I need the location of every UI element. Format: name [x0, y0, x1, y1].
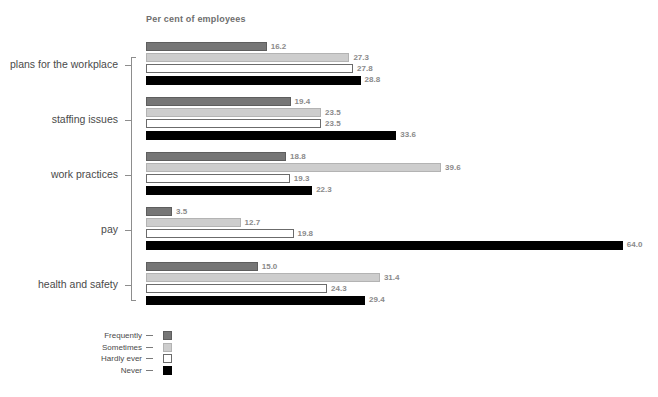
bar-row: 39.6	[146, 163, 658, 172]
bar-frequently[interactable]	[146, 262, 258, 271]
bar-group: work practices18.839.619.322.3	[0, 152, 658, 200]
bar-value-label: 15.0	[262, 262, 278, 272]
legend-item[interactable]: Frequently	[62, 330, 172, 341]
bar-never[interactable]	[146, 241, 623, 250]
bar-row: 16.2	[146, 42, 658, 51]
bar-value-label: 3.5	[176, 207, 187, 217]
bar-sometimes[interactable]	[146, 108, 321, 117]
bar-row: 22.3	[146, 186, 658, 195]
bar-sometimes[interactable]	[146, 53, 349, 62]
legend-swatch-frequently	[163, 331, 172, 340]
legend-swatch-hardly	[163, 354, 172, 363]
bar-value-label: 19.8	[298, 229, 314, 239]
legend-item-label: Sometimes	[102, 342, 142, 353]
bar-value-label: 23.5	[325, 119, 341, 129]
bar-row: 19.4	[146, 97, 658, 106]
bar-frequently[interactable]	[146, 97, 291, 106]
bar-value-label: 24.3	[331, 284, 347, 294]
bar-never[interactable]	[146, 131, 396, 140]
category-axis-tick	[125, 230, 131, 231]
bar-hardly[interactable]	[146, 284, 327, 293]
legend-item-label: Frequently	[104, 330, 142, 341]
bar-row: 27.3	[146, 53, 658, 62]
bar-row: 19.8	[146, 229, 658, 238]
bar-value-label: 12.7	[245, 218, 261, 228]
bar-hardly[interactable]	[146, 64, 353, 73]
legend-leader-line	[146, 347, 153, 348]
category-label: work practices	[0, 168, 118, 180]
legend-item-label: Never	[121, 365, 142, 376]
plot-area: plans for the workplace16.227.327.828.8s…	[0, 38, 658, 320]
category-label: pay	[0, 223, 118, 235]
legend-leader-line	[146, 335, 153, 336]
category-axis-tick	[125, 65, 131, 66]
legend-swatch-never	[163, 366, 172, 375]
bar-row: 19.3	[146, 174, 658, 183]
bar-value-label: 27.8	[357, 64, 373, 74]
bar-chart: Per cent of employees plans for the work…	[0, 0, 658, 397]
bar-value-label: 33.6	[400, 130, 416, 140]
bar-row: 24.3	[146, 284, 658, 293]
category-axis-tick	[125, 175, 131, 176]
bar-row: 12.7	[146, 218, 658, 227]
bar-row: 64.0	[146, 241, 658, 250]
category-label: plans for the workplace	[0, 58, 118, 70]
bar-row: 23.5	[146, 108, 658, 117]
bar-sometimes[interactable]	[146, 273, 380, 282]
bar-row: 28.8	[146, 76, 658, 85]
legend-item[interactable]: Never	[62, 365, 172, 376]
bar-never[interactable]	[146, 76, 361, 85]
bar-value-label: 64.0	[627, 240, 643, 250]
bar-stack: 18.839.619.322.3	[146, 152, 658, 200]
bar-stack: 15.031.424.329.4	[146, 262, 658, 310]
bar-stack: 19.423.523.533.6	[146, 97, 658, 145]
bar-frequently[interactable]	[146, 152, 286, 161]
bar-row: 18.8	[146, 152, 658, 161]
bar-value-label: 28.8	[365, 75, 381, 85]
bar-sometimes[interactable]	[146, 218, 241, 227]
legend-swatch-sometimes	[163, 343, 172, 352]
bar-value-label: 39.6	[445, 163, 461, 173]
category-label: staffing issues	[0, 113, 118, 125]
x-axis-title: Per cent of employees	[146, 14, 246, 24]
bar-frequently[interactable]	[146, 207, 172, 216]
bar-value-label: 19.3	[294, 174, 310, 184]
bar-value-label: 23.5	[325, 108, 341, 118]
legend-item-label: Hardly ever	[101, 353, 142, 364]
bar-group: health and safety15.031.424.329.4	[0, 262, 658, 310]
bar-row: 27.8	[146, 64, 658, 73]
bar-hardly[interactable]	[146, 174, 290, 183]
bar-row: 3.5	[146, 207, 658, 216]
bar-value-label: 16.2	[271, 42, 287, 52]
bar-row: 29.4	[146, 296, 658, 305]
bar-row: 23.5	[146, 119, 658, 128]
bar-row: 31.4	[146, 273, 658, 282]
bar-never[interactable]	[146, 296, 365, 305]
legend-leader-line	[146, 358, 153, 359]
category-axis-tick	[125, 285, 131, 286]
bar-hardly[interactable]	[146, 119, 321, 128]
bar-row: 15.0	[146, 262, 658, 271]
legend-item[interactable]: Sometimes	[62, 342, 172, 353]
bar-group: plans for the workplace16.227.327.828.8	[0, 42, 658, 90]
bar-value-label: 22.3	[316, 185, 332, 195]
bar-value-label: 29.4	[369, 295, 385, 305]
bar-value-label: 31.4	[384, 273, 400, 283]
bar-value-label: 18.8	[290, 152, 306, 162]
bar-sometimes[interactable]	[146, 163, 441, 172]
bar-frequently[interactable]	[146, 42, 267, 51]
legend-item[interactable]: Hardly ever	[62, 353, 172, 364]
bar-group: pay3.512.719.864.0	[0, 207, 658, 255]
bar-never[interactable]	[146, 186, 312, 195]
chart-legend: FrequentlySometimesHardly everNever	[62, 330, 172, 376]
category-axis-tick	[125, 120, 131, 121]
bar-hardly[interactable]	[146, 229, 294, 238]
legend-leader-line	[146, 370, 153, 371]
bar-stack: 16.227.327.828.8	[146, 42, 658, 90]
bar-group: staffing issues19.423.523.533.6	[0, 97, 658, 145]
bar-value-label: 27.3	[353, 53, 369, 63]
bar-value-label: 19.4	[295, 97, 311, 107]
category-label: health and safety	[0, 278, 118, 290]
bar-stack: 3.512.719.864.0	[146, 207, 658, 255]
bar-row: 33.6	[146, 131, 658, 140]
